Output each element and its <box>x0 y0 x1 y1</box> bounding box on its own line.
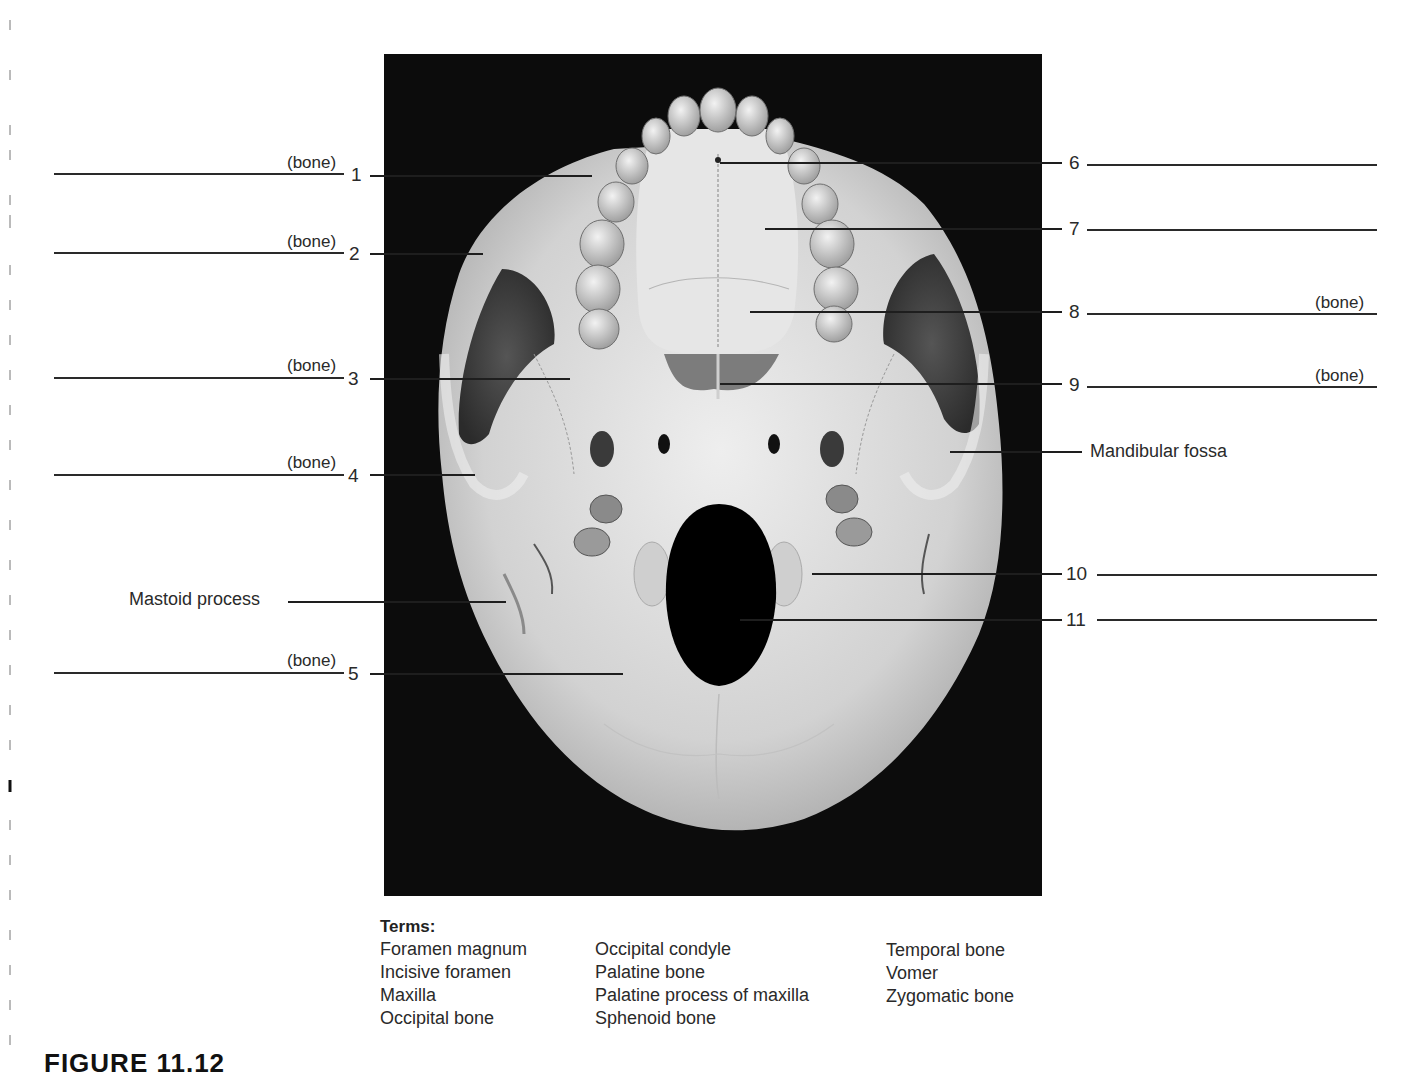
answer-line-3[interactable] <box>54 377 344 379</box>
terms-column-2: Occipital condyle Palatine bone Palatine… <box>595 938 809 1030</box>
label-number-3: 3 <box>348 369 359 388</box>
term-item: Occipital condyle <box>595 938 809 961</box>
skull-photo <box>384 54 1042 896</box>
bone-tag-9: (bone) <box>1315 367 1364 384</box>
term-item: Incisive foramen <box>380 961 527 984</box>
label-number-4: 4 <box>348 466 359 485</box>
bone-tag-3: (bone) <box>287 357 336 374</box>
label-number-10: 10 <box>1066 564 1087 583</box>
term-item: Zygomatic bone <box>886 985 1014 1008</box>
terms-title: Terms: <box>380 917 435 937</box>
label-mastoid-process: Mastoid process <box>129 590 260 608</box>
bone-tag-5: (bone) <box>287 652 336 669</box>
leader-line-9 <box>720 383 1062 385</box>
margin-ticks <box>8 0 12 1061</box>
term-item: Vomer <box>886 962 1014 985</box>
answer-line-5[interactable] <box>54 672 344 674</box>
term-item: Foramen magnum <box>380 938 527 961</box>
bone-tag-2: (bone) <box>287 233 336 250</box>
bone-tag-8: (bone) <box>1315 294 1364 311</box>
answer-line-10[interactable] <box>1097 574 1377 576</box>
term-item: Maxilla <box>380 984 527 1007</box>
label-number-7: 7 <box>1069 219 1080 238</box>
label-number-9: 9 <box>1069 375 1080 394</box>
answer-line-8[interactable] <box>1087 313 1377 315</box>
terms-column-3: Temporal bone Vomer Zygomatic bone <box>886 939 1014 1008</box>
label-number-8: 8 <box>1069 302 1080 321</box>
label-number-11: 11 <box>1066 610 1086 629</box>
figure-caption: FIGURE 11.12 <box>44 1048 225 1076</box>
label-number-6: 6 <box>1069 153 1080 172</box>
leader-line-10 <box>812 573 1062 575</box>
bone-tag-4: (bone) <box>287 454 336 471</box>
term-item: Temporal bone <box>886 939 1014 962</box>
answer-line-9[interactable] <box>1087 386 1377 388</box>
answer-line-1[interactable] <box>54 173 344 175</box>
leader-line-5 <box>370 673 623 675</box>
label-mandibular-fossa: Mandibular fossa <box>1090 442 1227 460</box>
answer-line-4[interactable] <box>54 474 344 476</box>
leader-line-8 <box>750 311 1062 313</box>
label-number-2: 2 <box>349 244 360 263</box>
occipital-condyle-left <box>634 542 670 606</box>
skull-illustration <box>384 54 1042 896</box>
terms-column-1: Foramen magnum Incisive foramen Maxilla … <box>380 938 527 1030</box>
leader-line-3 <box>370 378 570 380</box>
leader-line-4 <box>370 474 475 476</box>
leader-line-6 <box>720 162 1062 164</box>
term-item: Occipital bone <box>380 1007 527 1030</box>
term-item: Sphenoid bone <box>595 1007 809 1030</box>
term-item: Palatine bone <box>595 961 809 984</box>
answer-line-7[interactable] <box>1087 229 1377 231</box>
label-number-5: 5 <box>348 664 359 683</box>
term-item: Palatine process of maxilla <box>595 984 809 1007</box>
leader-line-11 <box>740 619 1062 621</box>
answer-line-11[interactable] <box>1097 619 1377 621</box>
leader-line-7 <box>765 228 1062 230</box>
terms-list: Terms: Foramen magnum Incisive foramen M… <box>380 917 435 937</box>
bone-tag-1: (bone) <box>287 154 336 171</box>
label-number-1: 1 <box>351 165 362 184</box>
leader-line-2 <box>370 253 483 255</box>
leader-line-1 <box>370 175 592 177</box>
answer-line-2[interactable] <box>54 252 344 254</box>
leader-line-mandibular-fossa <box>950 451 1082 453</box>
answer-line-6[interactable] <box>1087 164 1377 166</box>
leader-line-mastoid <box>288 601 506 603</box>
